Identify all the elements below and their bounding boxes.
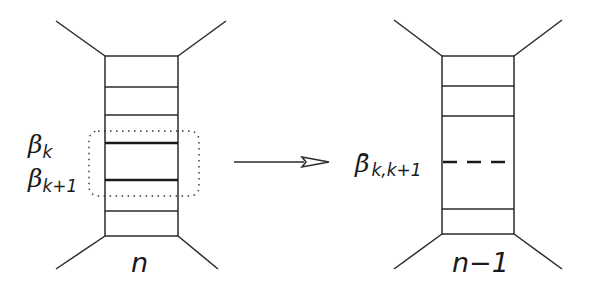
bottom-right-leg bbox=[178, 236, 218, 269]
arrow-head-icon bbox=[302, 157, 329, 167]
top-left-leg bbox=[394, 20, 442, 56]
top-right-leg bbox=[178, 21, 226, 56]
label-beta-k: βk bbox=[27, 130, 53, 162]
label-n-minus-1: n−1 bbox=[452, 247, 509, 278]
right-ladder: β̄k,k+1 n−1 bbox=[354, 20, 562, 278]
top-right-leg bbox=[514, 20, 562, 56]
label-beta-bar-k-k-plus-1: β̄k,k+1 bbox=[354, 149, 422, 180]
bottom-right-leg bbox=[514, 234, 562, 269]
label-beta-k-plus-1: βk+1 bbox=[27, 164, 77, 196]
bottom-left-leg bbox=[56, 236, 105, 269]
top-left-leg bbox=[56, 21, 105, 56]
label-n: n bbox=[131, 247, 148, 278]
transform-arrow bbox=[234, 157, 329, 167]
bottom-left-leg bbox=[394, 234, 442, 269]
ladder-reduction-diagram: βk βk+1 n β̄k,k+1 n−1 bbox=[0, 0, 591, 289]
left-ladder: βk βk+1 n bbox=[27, 21, 226, 278]
